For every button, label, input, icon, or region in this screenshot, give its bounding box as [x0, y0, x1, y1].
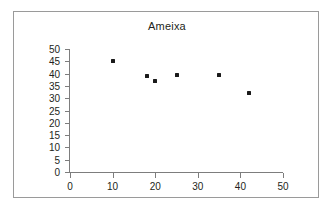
- chart-title: Ameixa: [0, 20, 334, 32]
- chart-figure: Ameixa 0510152025303540455001020304050: [0, 0, 334, 211]
- chart-frame: [13, 11, 319, 198]
